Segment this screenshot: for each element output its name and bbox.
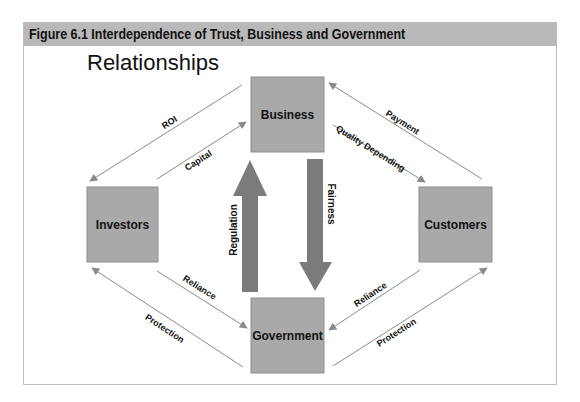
quality-depending-label: Quality Depending <box>334 123 407 173</box>
node-investors-label: Investors <box>96 218 150 232</box>
roi-arrow: ROI <box>90 85 242 181</box>
fairness-label: Fairness <box>326 183 337 225</box>
protection-right-arrow: Protection <box>333 268 487 366</box>
node-business: Business <box>251 77 324 152</box>
node-business-label: Business <box>261 108 315 122</box>
capital-label: Capital <box>183 148 214 173</box>
roi-label: ROI <box>160 114 179 131</box>
protection-left-label: Protection <box>143 312 186 345</box>
reliance-left-label: Reliance <box>181 273 218 301</box>
fairness-arrow: Fairness <box>299 159 337 291</box>
relationship-diagram: Business Investors Customers Government … <box>0 0 580 402</box>
regulation-arrow: Regulation <box>228 160 267 292</box>
node-government: Government <box>251 298 324 373</box>
payment-label: Payment <box>384 108 421 136</box>
node-customers: Customers <box>419 187 492 262</box>
regulation-label: Regulation <box>228 204 239 256</box>
node-government-label: Government <box>252 329 323 343</box>
protection-right-label: Protection <box>375 316 418 348</box>
node-customers-label: Customers <box>424 218 487 232</box>
node-investors: Investors <box>87 187 158 262</box>
protection-left-arrow: Protection <box>92 268 243 367</box>
